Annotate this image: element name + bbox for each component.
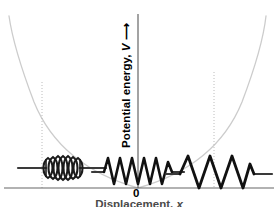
- x-axis-label: Displacement, x: [0, 199, 278, 207]
- stretched-spring: [166, 156, 272, 188]
- compressed-spring-coils: [44, 156, 83, 180]
- y-axis-label-symbol: V: [120, 43, 132, 51]
- y-axis-label-text: Potential energy,: [120, 54, 132, 148]
- x-axis-label-symbol: x: [176, 198, 182, 207]
- origin-label: 0: [133, 188, 139, 200]
- potential-energy-diagram: Potential energy, V ⟶ Displacement, x 0: [0, 0, 278, 207]
- compressed-spring: [18, 156, 106, 180]
- plot-canvas: [0, 0, 278, 207]
- y-axis-arrow-icon: ⟶: [120, 23, 132, 40]
- y-axis-label: Potential energy, V ⟶: [121, 0, 133, 148]
- stretched-spring-zigzag: [180, 156, 254, 188]
